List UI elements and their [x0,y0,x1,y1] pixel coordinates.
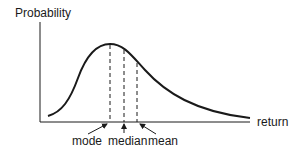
density-curve [48,44,250,118]
mode-arrow-icon [88,124,107,134]
median-label: median [108,134,147,148]
x-axis-label: return [257,115,288,129]
y-axis-label: Probability [15,6,71,20]
distribution-diagram: Probability return mode median mean [0,0,300,155]
mean-label: mean [148,134,178,148]
mode-label: mode [72,134,102,148]
mean-arrow-icon [140,124,156,134]
